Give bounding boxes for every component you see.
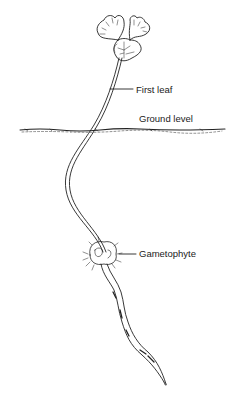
seedling-illustration	[0, 0, 237, 402]
first-leaf	[97, 15, 150, 60]
label-gametophyte: Gametophyte	[139, 248, 196, 259]
label-ground-level: Ground level	[139, 113, 193, 124]
label-first-leaf: First leaf	[136, 84, 172, 95]
leaf-stalk	[65, 58, 122, 252]
ground-line	[20, 129, 225, 134]
root	[101, 264, 166, 385]
gametophyte-structure	[83, 237, 122, 270]
